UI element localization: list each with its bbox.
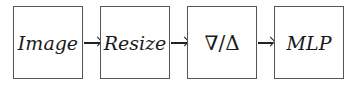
arrow-grad-to-mlp: [258, 42, 273, 44]
node-image: Image: [13, 6, 83, 79]
node-resize-label: Resize: [104, 32, 167, 54]
node-mlp-label: MLP: [287, 32, 332, 54]
node-image-label: Image: [18, 32, 78, 54]
node-mlp: MLP: [274, 6, 344, 79]
arrow-image-to-resize: [84, 42, 100, 44]
node-resize: Resize: [100, 6, 170, 79]
node-gradient-laplacian-label: ∇/Δ: [204, 31, 239, 55]
arrow-resize-to-grad: [171, 42, 187, 44]
node-gradient-laplacian: ∇/Δ: [187, 6, 257, 79]
